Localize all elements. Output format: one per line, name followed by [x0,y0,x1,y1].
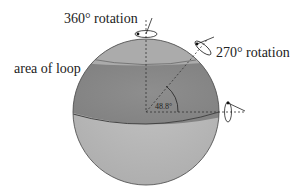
spin-indicator-270-icon [193,37,214,57]
label-angle: 48.8° [155,103,172,111]
sphere-diagram [0,0,303,194]
sphere-body [70,36,230,194]
label-area-of-loop: area of loop [14,62,81,76]
label-270-rotation: 270° rotation [216,46,290,60]
label-360-rotation: 360° rotation [64,12,138,26]
